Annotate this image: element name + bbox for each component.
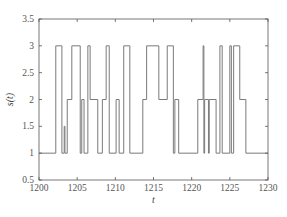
y-tick-label: 2.5 (22, 68, 34, 78)
x-tick-label: 1220 (182, 183, 201, 193)
x-tick-label: 1205 (68, 183, 87, 193)
x-tick-label: 1210 (106, 183, 125, 193)
y-tick-label: 0.5 (22, 175, 34, 185)
y-tick-label: 2 (29, 95, 34, 105)
signal-series (39, 46, 268, 153)
x-tick-labels: 1200120512101215122012251230 (30, 183, 278, 193)
y-tick-label: 3.5 (22, 14, 34, 24)
y-tick-label: 1 (29, 148, 34, 158)
y-tick-labels: 0.511.522.533.5 (22, 14, 34, 185)
series-line (39, 46, 268, 153)
y-axis-label: s(t) (4, 92, 16, 106)
y-tick-label: 1.5 (22, 121, 34, 131)
y-tick-label: 3 (29, 41, 34, 51)
x-tick-label: 1230 (259, 183, 278, 193)
x-axis-label: t (152, 194, 155, 205)
x-tick-label: 1225 (220, 183, 239, 193)
step-chart: 1200120512101215122012251230 0.511.522.5… (0, 0, 287, 217)
x-tick-label: 1215 (144, 183, 163, 193)
